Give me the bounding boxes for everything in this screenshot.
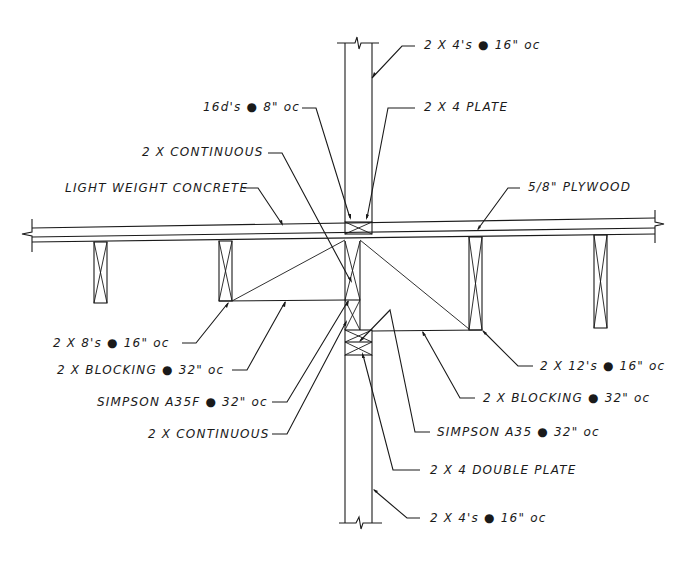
label-nails: 16d's ● 8" oc	[203, 100, 300, 114]
label-simpson-a35f: SIMPSON A35F ● 32" oc	[97, 395, 268, 409]
blocking-right-bottom	[372, 330, 482, 331]
joist-right-1	[469, 237, 482, 330]
blocking-left-bottom	[219, 300, 345, 301]
joist-right-2	[594, 235, 607, 328]
a35-right-diagonal	[360, 240, 469, 329]
continuous-rim	[345, 241, 360, 330]
label-bottom-studs: 2 X 4's ● 16" oc	[430, 511, 547, 525]
leader-lines	[182, 46, 533, 518]
break-line-right	[655, 210, 664, 243]
double-plate	[345, 330, 372, 355]
label-joists-left: 2 X 8's ● 16" oc	[53, 336, 170, 350]
upper-stud-wall	[337, 37, 379, 222]
label-top-plate: 2 X 4 PLATE	[424, 100, 508, 114]
label-continuous-lower: 2 X CONTINUOUS	[148, 427, 270, 441]
label-plywood: 5/8" PLYWOOD	[528, 180, 631, 194]
lower-stud-wall	[339, 355, 382, 529]
label-blocking-right: 2 X BLOCKING ● 32" oc	[483, 391, 650, 405]
label-blocking-left: 2 X BLOCKING ● 32" oc	[57, 363, 224, 377]
a35f-left-diagonal	[232, 240, 345, 301]
label-double-plate: 2 X 4 DOUBLE PLATE	[430, 463, 577, 477]
label-concrete: LIGHT WEIGHT CONCRETE	[65, 181, 248, 195]
break-line-left	[22, 219, 32, 252]
floor-deck	[22, 210, 664, 252]
label-simpson-a35: SIMPSON A35 ● 32" oc	[437, 425, 600, 439]
label-continuous-upper: 2 X CONTINUOUS	[142, 145, 264, 159]
joist-left-2	[219, 241, 232, 301]
framing-section-drawing	[0, 0, 689, 576]
label-joists-right: 2 X 12's ● 16" oc	[540, 359, 665, 373]
joist-left-1	[94, 242, 107, 303]
label-top-studs: 2 X 4's ● 16" oc	[424, 38, 541, 52]
break-line-top	[337, 37, 379, 49]
